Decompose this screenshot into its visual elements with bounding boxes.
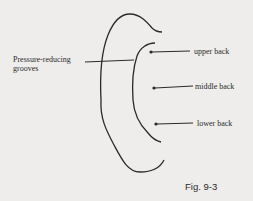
middle-back-label: middle back (195, 82, 234, 91)
grooves-label-line1: Pressure-reducing (13, 55, 71, 64)
grooves-label-line2: grooves (13, 64, 71, 73)
outer-outline-lower (101, 100, 164, 172)
insole-diagram (0, 0, 253, 201)
inner-outline (133, 43, 161, 142)
grooves-leader (85, 60, 134, 62)
grooves-label: Pressure-reducing grooves (13, 55, 71, 73)
lower-back-label: lower back (197, 119, 232, 128)
upper-back-label: upper back (194, 47, 229, 56)
figure-caption: Fig. 9-3 (185, 181, 217, 192)
